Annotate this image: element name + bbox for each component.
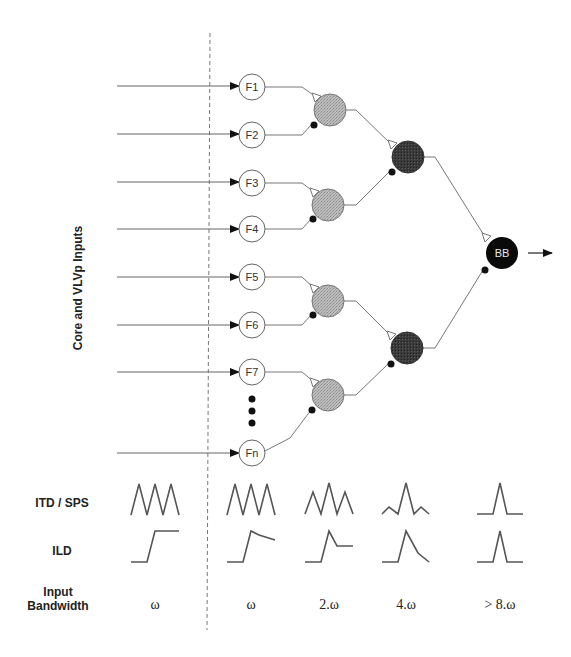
output-node-bb: BB (486, 237, 518, 269)
input-node-f4: F4 (239, 216, 265, 242)
ild-wave-level1 (305, 531, 353, 562)
svg-text:BB: BB (495, 247, 510, 259)
itd-wave-f (227, 484, 275, 515)
dot-synapse-icon (311, 122, 318, 129)
bandwidth-level1: 2.ω (319, 597, 339, 612)
dot-synapse-icon (388, 361, 395, 368)
input-node-f5: F5 (239, 264, 265, 290)
dot-synapse-icon (310, 216, 317, 223)
svg-text:F4: F4 (246, 223, 259, 235)
ild-wave-bb (477, 531, 523, 562)
ild-wave-f (227, 531, 275, 562)
svg-text:F5: F5 (246, 271, 259, 283)
itd-sps-label: ITD / SPS (35, 496, 88, 510)
level1-node (312, 379, 344, 411)
level1-node (314, 94, 346, 126)
level2-node (391, 332, 423, 364)
ild-wave-input (131, 531, 179, 562)
svg-text:F7: F7 (246, 366, 259, 378)
itd-wave-input (131, 484, 179, 515)
ellipsis-dots (249, 396, 256, 427)
level1-node (312, 189, 344, 221)
wires-output (423, 157, 485, 348)
level1-node (312, 285, 344, 317)
input-nodes: F1 F2 F3 F4 F5 F6 F7 (239, 74, 265, 466)
wires-level2 (344, 110, 391, 395)
ild-wave-level2 (382, 531, 429, 562)
itd-waveforms (131, 483, 523, 515)
dot-synapse-icon (310, 312, 317, 319)
bandwidth-label-line2: Bandwidth (27, 599, 88, 613)
bandwidth-bb: > 8.ω (484, 597, 515, 612)
wires-level1 (265, 87, 316, 451)
svg-text:F6: F6 (246, 319, 259, 331)
input-node-f1: F1 (239, 74, 265, 100)
level2-node (392, 141, 424, 173)
input-node-f2: F2 (239, 122, 265, 148)
axis-label: Core and VLVp Inputs (71, 225, 85, 350)
svg-text:F2: F2 (246, 129, 259, 141)
input-node-fn: Fn (239, 440, 265, 466)
ild-label: ILD (52, 544, 72, 558)
svg-text:F3: F3 (246, 177, 259, 189)
svg-text:Fn: Fn (246, 447, 259, 459)
level2-nodes (391, 141, 424, 364)
input-arrows (117, 86, 239, 453)
itd-wave-bb (477, 483, 523, 514)
bandwidth-f: ω (246, 597, 255, 612)
itd-wave-level1 (305, 483, 353, 514)
dot-synapse-icon (309, 407, 316, 414)
ild-waveforms (131, 531, 523, 562)
neural-network-diagram: Core and VLVp Inputs (0, 0, 571, 657)
input-node-f3: F3 (239, 170, 265, 196)
bandwidth-input: ω (150, 597, 159, 612)
bandwidth-level2: 4.ω (396, 597, 416, 612)
input-node-f6: F6 (239, 312, 265, 338)
input-node-f7: F7 (239, 359, 265, 385)
dot-synapse-icon (389, 169, 396, 176)
bandwidth-label-line1: Input (43, 585, 72, 599)
itd-wave-level2 (382, 483, 429, 514)
triangle-synapse-icon (482, 233, 491, 242)
dashed-divider (207, 33, 210, 630)
level1-nodes (312, 94, 346, 411)
svg-text:F1: F1 (246, 81, 259, 93)
dot-synapse-icon (482, 267, 489, 274)
